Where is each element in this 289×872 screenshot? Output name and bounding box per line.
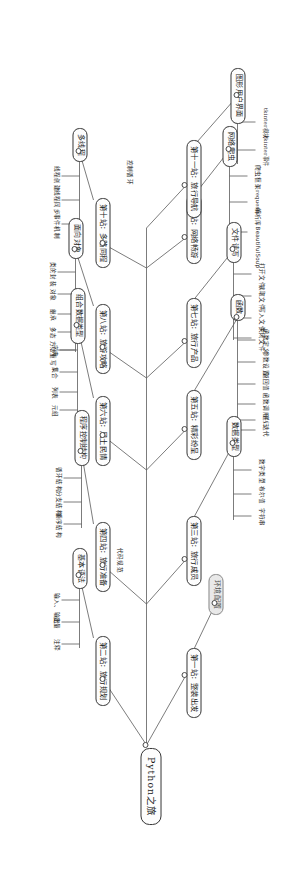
station-node-s2[interactable]: 第二站：旅行规划 [95,636,110,706]
station-node-s3[interactable]: 第三站：旅行成员 [186,516,201,586]
station-node-s11[interactable]: 第十一站：旅行导航 [186,140,201,218]
edge-label-code: 代码规范 [115,548,121,573]
leaf-thread-1: 线程同步 [52,190,58,215]
topic-node-oop[interactable]: 面向对象 [68,218,83,259]
station-label-s2: 第二站：旅行规划 [99,642,106,700]
link-root-s5 [146,430,185,470]
topic-label-base: 基本语法 [76,554,83,583]
link-root-s1 [146,676,185,745]
link-root-s3 [146,560,185,604]
leaf-spider-2: 解析库BeautifulSoup [253,208,259,268]
station-label-s8: 第八站：旅游攻略 [99,310,106,368]
leaf-ctrl-0: 循环结构 [54,467,60,492]
leaf-thread-0: 线程创建 [52,166,58,191]
leaf-ctrl-2: 顺序结构 [54,513,60,538]
topic-label-dtype: 数据类型 [230,422,237,451]
leaf-dtype-0: 数字类型 [257,459,263,484]
station-label-s5: 第五站：精彩纷呈 [190,396,197,454]
mindmap-rotated-canvas: Python之旅 第一站：整装出发 第二站：旅行规划 第三站：旅行成员 第四站：… [0,0,289,872]
edge-label-ctrl: 控制循环 [125,160,131,185]
topic-node-base[interactable]: 基本语法 [72,548,87,589]
station-label-s1: 第一站：整装出发 [190,654,197,712]
station-label-s11: 第十一站：旅行导航 [190,146,197,212]
link-root-s9 [146,238,185,268]
station-node-s1[interactable]: 第一站：整装出发 [186,648,201,718]
mindmap-canvas-frame: Python之旅 第一站：整装出发 第二站：旅行规划 第三站：旅行成员 第四站：… [0,0,289,872]
leaf-file-3: 关闭文件 [257,327,263,352]
topic-node-env[interactable]: 环境配置 [208,574,223,615]
topic-label-func: 函数 [234,300,241,315]
leaf-oop-0: 类的封装 [48,262,54,287]
station-label-s10: 第十站：多路同程 [99,204,106,262]
leaf-oop-4: 方法重写 [48,341,54,366]
station-node-s7[interactable]: 第七站：旅行产品 [186,298,201,368]
station-node-s10[interactable]: 第十站：多路同程 [95,198,110,268]
root-node[interactable]: Python之旅 [140,748,161,825]
leaf-oop-1: 对象 [48,289,54,301]
root-label: Python之旅 [146,757,155,816]
leaf-func-2: 返回值 [261,373,267,392]
leaf-gui-1: tkinter事件 [262,136,267,166]
station-node-s8[interactable]: 第八站：旅游攻略 [95,304,110,374]
topic-node-dtype[interactable]: 数据类型 [226,416,241,457]
topic-label-coll: 组合数据类型 [74,294,81,338]
leaf-gui-0: tkinter模块 [262,108,267,138]
topic-node-ctrl[interactable]: 程序控制结构 [74,410,89,466]
leaf-base-1: 变量 [52,617,58,629]
leaf-coll-1: 集合 [50,367,56,379]
leaf-func-5: 迭代 [261,425,267,437]
leaf-coll-3: 元组 [50,405,56,417]
topic-node-file[interactable]: 文件读写 [226,222,241,263]
station-label-s3: 第三站：旅行成员 [190,522,197,580]
leaf-dtype-1: 布尔值 [257,486,263,505]
topic-label-file: 文件读写 [230,228,237,257]
leaf-thread-2: 事件机制 [52,214,58,239]
mindmap-content: Python之旅 第一站：整装出发 第二站：旅行规划 第三站：旅行成员 第四站：… [0,0,289,872]
station-node-s5[interactable]: 第五站：精彩纷呈 [186,390,201,460]
topic-node-thread[interactable]: 多线程 [72,128,87,162]
station-node-s4[interactable]: 第四站：旅行准备 [95,522,110,592]
link-root-s11 [146,186,185,228]
station-label-s4: 第四站：旅行准备 [99,528,106,586]
leaf-oop-2: 继承 [48,309,54,321]
leaf-spider-0: 爬虫框架 [253,165,259,190]
leaf-dtype-2: 字符串 [257,508,263,527]
link-root-s7 [146,342,185,378]
topic-node-coll[interactable]: 组合数据类型 [70,288,85,344]
leaf-coll-2: 列表 [50,387,56,399]
leaf-oop-3: 多态 [48,327,54,339]
station-label-s7: 第七站：旅行产品 [190,304,197,362]
leaf-base-2: 注释 [52,639,58,651]
